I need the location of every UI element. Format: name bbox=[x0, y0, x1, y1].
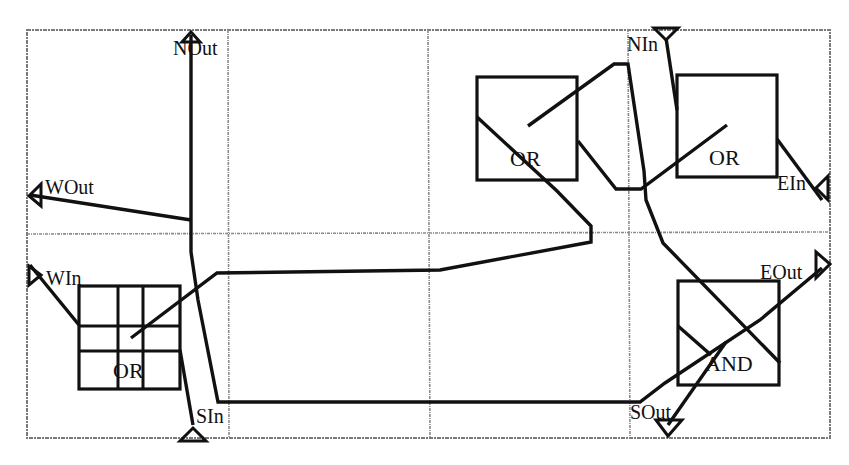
logic-tile-diagram: OR OR OR AND bbox=[0, 0, 849, 465]
wire-or1-out[interactable] bbox=[528, 64, 780, 363]
wire-nin[interactable] bbox=[666, 38, 677, 110]
port-label: SIn bbox=[196, 405, 224, 427]
grid-vline-1 bbox=[228, 30, 229, 438]
port-w-in[interactable]: WIn bbox=[29, 266, 82, 289]
gate-label: OR bbox=[709, 145, 740, 170]
wire-sin[interactable] bbox=[180, 350, 193, 425]
wire-wout[interactable] bbox=[30, 195, 191, 220]
port-e-out[interactable]: EOut bbox=[760, 252, 830, 283]
up-triangle-icon bbox=[180, 428, 206, 441]
grid-vline-2 bbox=[428, 30, 430, 438]
port-label: NIn bbox=[627, 33, 658, 55]
port-n-out[interactable]: NOut bbox=[173, 32, 218, 59]
gate-grid-or[interactable]: OR bbox=[79, 286, 180, 389]
port-label: EIn bbox=[777, 172, 806, 194]
port-s-out[interactable]: SOut bbox=[630, 401, 682, 436]
left-triangle-icon bbox=[29, 266, 41, 285]
wires bbox=[30, 35, 822, 425]
port-label: WOut bbox=[45, 176, 94, 198]
gate-label: OR bbox=[113, 358, 144, 383]
right-arrow-icon bbox=[816, 252, 830, 278]
port-label: NOut bbox=[173, 37, 218, 59]
wire-or1-to-or2[interactable] bbox=[578, 125, 727, 189]
wire-nout-to-sin[interactable] bbox=[191, 35, 822, 402]
tile-grid bbox=[27, 29, 830, 438]
gate-and-1[interactable]: AND bbox=[678, 281, 779, 385]
port-n-in[interactable]: NIn bbox=[627, 28, 678, 55]
port-label: WIn bbox=[46, 267, 82, 289]
wire-and-inner[interactable] bbox=[678, 326, 711, 355]
port-label: EOut bbox=[760, 261, 803, 283]
port-s-in[interactable]: SIn bbox=[180, 405, 224, 441]
port-label: SOut bbox=[630, 401, 672, 423]
